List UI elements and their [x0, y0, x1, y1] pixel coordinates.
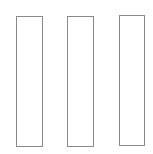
rectangle-1 — [16, 16, 43, 147]
rectangle-2 — [67, 16, 94, 147]
rectangle-3 — [119, 15, 145, 146]
